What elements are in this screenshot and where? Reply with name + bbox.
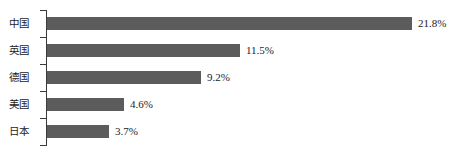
category-label: 德国 (0, 71, 38, 84)
plot-area: 中国 21.8% 英国 11.5% 德国 9.2% 美国 4.6% 日本 3.7… (0, 0, 462, 163)
bar-segment (47, 125, 109, 138)
bar-segment (47, 71, 201, 84)
axis-tick-3 (40, 91, 47, 92)
category-label: 英国 (0, 44, 38, 57)
bar-value-label: 11.5% (246, 44, 274, 57)
category-label: 日本 (0, 125, 38, 138)
bar-row: 英国 11.5% (0, 44, 462, 57)
bar-segment (47, 98, 124, 111)
bar-segment (47, 44, 240, 57)
category-label: 中国 (0, 17, 38, 30)
bar-value-label: 4.6% (130, 98, 153, 111)
bar-value-label: 9.2% (207, 71, 230, 84)
axis-tick-4 (40, 118, 47, 119)
axis-tick-bottom (40, 145, 47, 146)
category-label: 美国 (0, 98, 38, 111)
bar-row: 日本 3.7% (0, 125, 462, 138)
axis-tick-2 (40, 64, 47, 65)
bar-row: 德国 9.2% (0, 71, 462, 84)
bar-value-label: 21.8% (418, 17, 446, 30)
bar-row: 中国 21.8% (0, 17, 462, 30)
axis-tick-top (40, 10, 47, 11)
bar-row: 美国 4.6% (0, 98, 462, 111)
axis-tick-1 (40, 37, 47, 38)
bar-value-label: 3.7% (115, 125, 138, 138)
bar-chart: 中国 21.8% 英国 11.5% 德国 9.2% 美国 4.6% 日本 3.7… (0, 0, 462, 163)
bar-segment (47, 17, 412, 30)
